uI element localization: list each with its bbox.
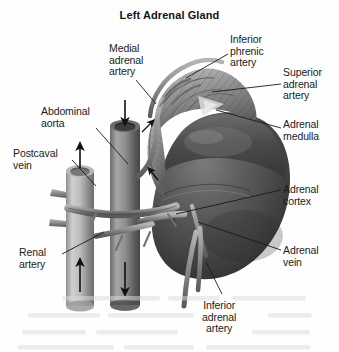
adrenal-gland-illustration <box>0 0 339 352</box>
label-superior-adrenal-artery: Superior adrenal artery <box>283 67 322 102</box>
label-adrenal-vein: Adrenal vein <box>283 245 319 268</box>
label-renal-artery: Renal artery <box>19 247 46 270</box>
label-adrenal-medulla: Adrenal medulla <box>283 119 319 142</box>
label-medial-adrenal-artery: Medial adrenal artery <box>109 43 143 78</box>
label-abdominal-aorta: Abdominal aorta <box>41 106 90 129</box>
label-postcaval-vein: Postcaval vein <box>13 148 58 171</box>
label-inferior-adrenal-artery: Inferior adrenal artery <box>202 300 236 335</box>
label-adrenal-cortex: Adrenal cortex <box>283 184 319 207</box>
label-inferior-phrenic-artery: Inferior phrenic artery <box>230 34 264 69</box>
leader-medial-adrenal-artery <box>136 80 156 104</box>
scan-ghost-text <box>18 296 312 350</box>
postcaval-vein-vessel <box>49 165 94 312</box>
kidney-body <box>152 112 290 279</box>
